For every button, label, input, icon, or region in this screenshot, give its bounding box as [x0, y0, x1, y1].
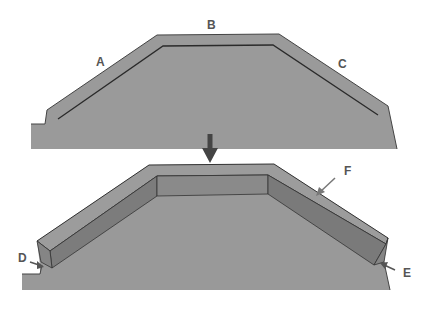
diagram-canvas: A B C D E [0, 0, 432, 311]
callout-f-arrow-icon [316, 178, 335, 196]
label-b: B [207, 18, 216, 32]
bottom-embankment: D E F [18, 164, 411, 290]
top-embankment: A B C [31, 18, 397, 149]
beam-middle-side [157, 175, 268, 196]
label-d: D [18, 251, 27, 265]
label-f: F [344, 164, 351, 178]
label-c: C [338, 57, 347, 71]
label-e: E [403, 266, 411, 280]
label-a: A [96, 55, 105, 69]
